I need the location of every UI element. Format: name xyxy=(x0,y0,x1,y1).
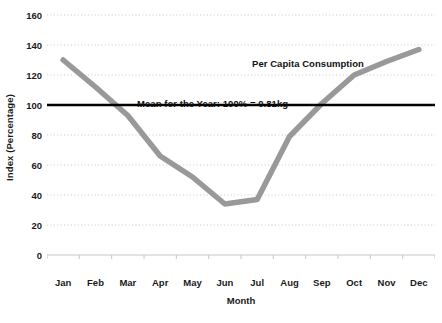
x-axis-tick-labels: JanFebMarAprMayJunJulAugSepOctNovDec xyxy=(47,277,435,295)
x-axis-tick-label: May xyxy=(183,277,201,288)
x-axis-tick-label: Jan xyxy=(55,277,71,288)
x-axis-tick-label: Nov xyxy=(378,277,396,288)
chart-container: Index (Percentage) 020406080100120140160… xyxy=(0,0,442,323)
gridlines-group xyxy=(47,15,435,225)
x-axis-tick-label: Aug xyxy=(280,277,298,288)
x-axis-title: Month xyxy=(47,295,435,306)
y-axis-tick-label: 20 xyxy=(31,220,42,231)
x-axis-tick-label: Apr xyxy=(152,277,168,288)
data-line-per-capita-consumption xyxy=(63,50,419,205)
plot-area: Mean for the Year: 100% = 0.81kg Per Cap… xyxy=(47,0,435,275)
y-axis-tick-label: 140 xyxy=(26,40,42,51)
series-label-per-capita-consumption: Per Capita Consumption xyxy=(252,58,364,69)
y-axis-title: Index (Percentage) xyxy=(0,0,18,275)
y-axis-tick-label: 160 xyxy=(26,10,42,21)
y-axis-tick-label: 40 xyxy=(31,190,42,201)
y-axis-tick-label: 80 xyxy=(31,130,42,141)
x-axis-tick-label: Dec xyxy=(410,277,427,288)
x-axis-tick-label: Sep xyxy=(313,277,330,288)
y-axis-title-text: Index (Percentage) xyxy=(4,94,15,181)
x-axis-tick-label: Jul xyxy=(250,277,264,288)
x-axis-tick-label: Jun xyxy=(216,277,233,288)
y-axis-tick-labels: 020406080100120140160 xyxy=(18,0,46,275)
y-axis-tick-label: 0 xyxy=(37,250,42,261)
y-axis-tick-label: 60 xyxy=(31,160,42,171)
x-axis-tick-label: Feb xyxy=(87,277,104,288)
y-axis-tick-label: 100 xyxy=(26,100,42,111)
plot-svg xyxy=(47,0,435,275)
x-axis-tick-marks xyxy=(47,255,435,259)
mean-line-label: Mean for the Year: 100% = 0.81kg xyxy=(137,98,288,109)
x-axis-tick-label: Mar xyxy=(119,277,136,288)
y-axis-tick-label: 120 xyxy=(26,70,42,81)
x-axis-tick-label: Oct xyxy=(346,277,362,288)
